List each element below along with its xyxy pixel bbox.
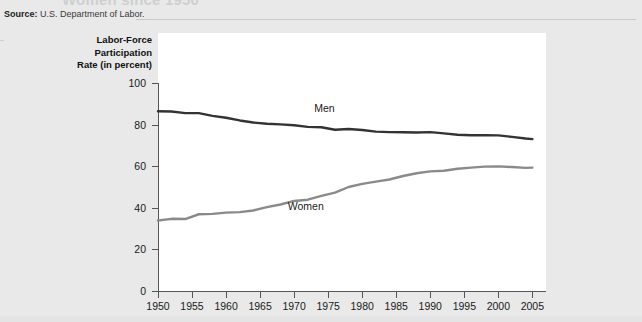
x-tick-label: 2005 (508, 300, 556, 312)
series-label-women: Women (288, 200, 324, 212)
x-tick (260, 292, 261, 298)
y-tick (152, 125, 158, 126)
y-axis-title-line-2: Participation (12, 47, 152, 60)
series-label-men: Men (314, 102, 334, 114)
x-tick (396, 292, 397, 298)
x-tick (158, 292, 159, 298)
y-axis-title-line-1: Labor-Force (12, 34, 152, 47)
x-tick (430, 292, 431, 298)
y-tick-label: 80 (86, 120, 146, 130)
y-tick (152, 249, 158, 250)
y-axis-line (158, 83, 159, 292)
x-tick (362, 292, 363, 298)
y-tick (152, 166, 158, 167)
y-tick-label: 100 (86, 78, 146, 88)
x-tick (294, 292, 295, 298)
y-tick (152, 208, 158, 209)
labor-force-participation-chart: Labor-Force Participation Rate (in perce… (0, 0, 642, 322)
bottom-shade (0, 316, 642, 322)
plot-area (158, 33, 546, 291)
y-tick-label: 60 (86, 161, 146, 171)
x-tick (226, 292, 227, 298)
y-axis-title-line-3: Rate (in percent) (12, 59, 152, 72)
y-tick (152, 83, 158, 84)
y-tick-label: 40 (86, 203, 146, 213)
y-axis-title: Labor-Force Participation Rate (in perce… (12, 34, 152, 72)
y-tick-label: 0 (86, 286, 146, 296)
x-tick (464, 292, 465, 298)
x-tick (532, 292, 533, 298)
x-tick (192, 292, 193, 298)
x-axis-line (158, 291, 546, 292)
x-tick (498, 292, 499, 298)
x-tick (328, 292, 329, 298)
y-tick-label: 20 (86, 244, 146, 254)
